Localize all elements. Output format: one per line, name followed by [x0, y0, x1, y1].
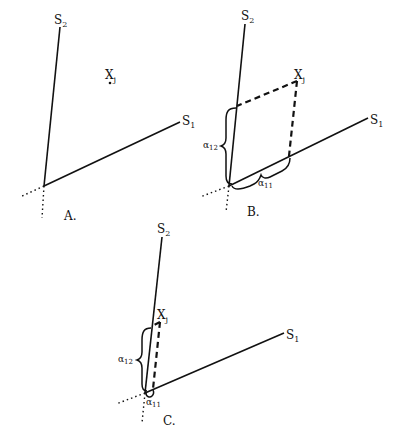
panel-a: S2 S1 Xj A. [20, 13, 195, 223]
panel-b-s1-label: S1 [370, 113, 383, 129]
panel-a-label: A. [63, 209, 76, 223]
panel-a-s1-label: S1 [182, 114, 195, 130]
panel-a-xj-label: Xj [105, 68, 116, 84]
panel-b-s2-label: S2 [241, 9, 254, 25]
panel-c-alpha12-label: α12 [118, 354, 133, 366]
panel-a-s1-axis-extension [20, 186, 44, 197]
panel-b-s1-axis-extension [200, 186, 229, 197]
oblique-axes-diagram: S2 S1 Xj A. S2 S1 Xj α12 α11 B. S2 S1 Xj… [0, 0, 396, 442]
panel-c-label: C. [163, 414, 176, 428]
panel-b-s1-axis [229, 118, 368, 186]
panel-a-s2-axis-extension [42, 186, 44, 218]
panel-c-xj-label: Xj [157, 308, 168, 324]
panel-c-alpha11-label: α11 [146, 397, 161, 409]
panel-a-s2-axis [44, 27, 60, 186]
panel-c: S2 S1 Xj α12 α11 C. [116, 222, 299, 428]
panel-b-s2-axis-extension [226, 186, 229, 212]
panel-b-projection-to-s1 [289, 81, 297, 156]
panel-b-xj-label: Xj [294, 68, 305, 84]
panel-c-s2-axis-extension [142, 393, 145, 423]
panel-b-projection-to-s2 [237, 81, 297, 106]
panel-c-s1-axis-extension [116, 393, 145, 404]
panel-a-s2-label: S2 [54, 13, 67, 29]
panel-a-s1-axis [44, 122, 180, 186]
panel-b-alpha11-label: α11 [258, 178, 273, 190]
panel-b-label: B. [247, 205, 260, 219]
panel-c-s1-label: S1 [286, 328, 299, 344]
panel-c-projection-to-s1 [153, 322, 160, 389]
panel-b-alpha12-label: α12 [203, 140, 218, 152]
panel-a-point-xj [109, 82, 112, 85]
panel-b: S2 S1 Xj α12 α11 B. [200, 9, 383, 219]
panel-c-s2-label: S2 [157, 222, 170, 238]
panel-c-s1-axis [145, 333, 284, 393]
